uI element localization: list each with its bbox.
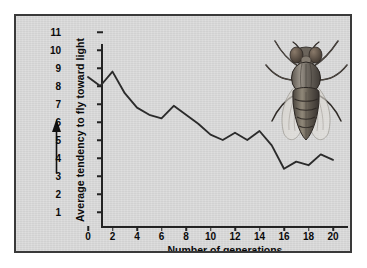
y-axis-label-wrap: Average tendency to fly toward light [58,34,78,224]
x-tick-mark [185,226,187,231]
x-axis-label: Number of generations [102,244,348,253]
x-tick-label: 4 [134,231,140,242]
x-tick-mark [210,226,212,231]
x-tick-label: 12 [229,231,240,242]
y-tick-mark [97,103,103,105]
fruit-fly-illustration [262,36,350,151]
y-tick-label: 7 [41,99,61,110]
x-tick-mark [332,226,334,231]
x-axis-line [101,226,348,228]
y-tick-mark [97,139,103,141]
y-tick-label: 4 [41,153,61,164]
x-tick-mark [234,226,236,231]
x-tick-label: 20 [327,231,338,242]
y-tick-mark [97,67,103,69]
y-tick-mark [97,211,103,213]
x-tick-mark [136,226,138,231]
y-tick-label: 8 [41,81,61,92]
y-tick-label: 11 [41,27,61,38]
x-tick-label: 8 [183,231,189,242]
y-tick-mark [97,157,103,159]
x-tick-label: 0 [85,231,91,242]
x-tick-label: 14 [254,231,265,242]
figure-canvas: Average tendency to fly toward light 111… [0,0,367,268]
y-axis-label: Average tendency to fly toward light [74,38,86,222]
y-tick-label: 3 [41,171,61,182]
x-tick-mark [259,226,261,231]
x-tick-label: 2 [110,231,116,242]
y-tick-mark [97,49,103,51]
y-tick-mark [97,85,103,87]
chart-panel: Average tendency to fly toward light 111… [14,14,352,253]
x-tick-mark [308,226,310,231]
x-tick-mark [283,226,285,231]
y-tick-label: 5 [41,135,61,146]
y-tick-label: 2 [41,189,61,200]
y-tick-mark [97,31,103,33]
x-tick-mark [112,226,114,231]
y-tick-label: 9 [41,63,61,74]
x-tick-mark [87,226,89,231]
x-tick-label: 18 [303,231,314,242]
y-tick-label: 6 [41,117,61,128]
x-tick-mark [161,226,163,231]
x-tick-label: 10 [205,231,216,242]
y-tick-mark [97,175,103,177]
y-tick-mark [97,193,103,195]
x-tick-label: 16 [278,231,289,242]
y-axis-line [101,44,103,228]
y-tick-label: 1 [41,207,61,218]
y-tick-label: 10 [41,45,61,56]
y-tick-mark [97,121,103,123]
x-tick-label: 6 [159,231,165,242]
